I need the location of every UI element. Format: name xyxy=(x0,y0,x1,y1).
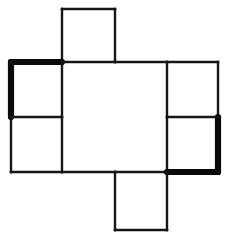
joint-bottom-left xyxy=(114,229,117,232)
joint-center-top-left xyxy=(61,61,64,64)
joint-center-top-mid xyxy=(114,61,117,64)
matchstick-figure xyxy=(0,0,234,247)
joint-center-top-right xyxy=(166,61,169,64)
joint-center-bottom-mid xyxy=(114,171,117,174)
matchstick-figure-canvas xyxy=(0,0,234,247)
joint-right-outer-mid xyxy=(217,116,220,119)
joint-left-outer-bottom xyxy=(10,171,13,174)
joint-center-right-mid xyxy=(166,116,169,119)
joint-right-outer-bottom xyxy=(217,171,220,174)
joint-left-outer-mid xyxy=(10,116,13,119)
joint-center-left-mid xyxy=(61,116,64,119)
joint-center-bottom-right xyxy=(166,171,169,174)
joint-right-outer-top xyxy=(217,61,220,64)
joint-center-bottom-left xyxy=(61,171,64,174)
joint-top-left xyxy=(61,8,64,11)
joint-top-right xyxy=(114,8,117,11)
joint-left-outer-top xyxy=(10,61,13,64)
joint-bottom-right xyxy=(166,229,169,232)
figure-background xyxy=(0,0,234,247)
